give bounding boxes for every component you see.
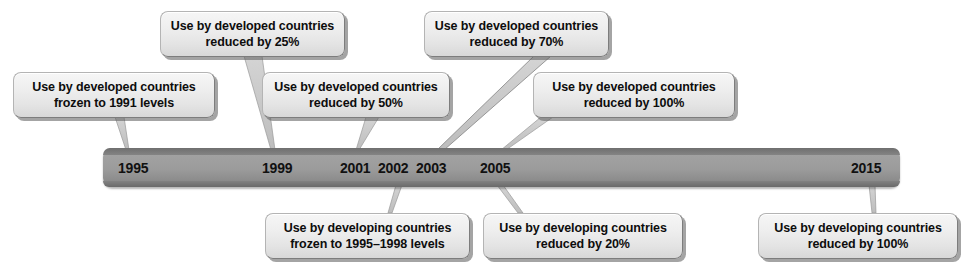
leader-line-2015-below <box>869 185 876 213</box>
callout-below-2005-text: Use by developing countries reduced by 2… <box>499 220 666 252</box>
callout-above-2005-text: Use by developed countries reduced by 10… <box>552 79 715 111</box>
callout-above-2005[interactable]: Use by developed countries reduced by 10… <box>533 72 735 118</box>
callout-above-1999[interactable]: Use by developed countries reduced by 25… <box>160 11 345 57</box>
tick-2001[interactable]: 2001 <box>340 160 370 176</box>
leader-line-2005-above <box>501 117 553 150</box>
callout-above-2001-text: Use by developed countries reduced by 50… <box>274 79 437 111</box>
tick-1995[interactable]: 1995 <box>118 160 148 176</box>
callout-below-2015-text: Use by developing countries reduced by 1… <box>774 220 941 252</box>
timeline-diagram: Use by developed countries frozen to 199… <box>0 0 974 276</box>
leader-line-2002-below <box>388 185 402 213</box>
callout-below-2002-text: Use by developing countries frozen to 19… <box>284 220 451 252</box>
callout-below-2005[interactable]: Use by developing countries reduced by 2… <box>483 213 683 259</box>
callout-below-2002[interactable]: Use by developing countries frozen to 19… <box>265 213 470 259</box>
callout-below-2015[interactable]: Use by developing countries reduced by 1… <box>758 213 958 259</box>
leader-line-2005-below <box>497 185 523 213</box>
tick-2003[interactable]: 2003 <box>416 160 446 176</box>
callout-above-1999-text: Use by developed countries reduced by 25… <box>171 18 334 50</box>
tick-2015[interactable]: 2015 <box>851 160 881 176</box>
callout-above-2003[interactable]: Use by developed countries reduced by 70… <box>424 11 609 57</box>
tick-2002[interactable]: 2002 <box>378 160 408 176</box>
callout-above-2001[interactable]: Use by developed countries reduced by 50… <box>262 72 450 118</box>
leader-line-1995 <box>115 117 129 150</box>
tick-2005[interactable]: 2005 <box>480 160 510 176</box>
callout-above-1995[interactable]: Use by developed countries frozen to 199… <box>13 72 215 118</box>
leader-line-2001 <box>356 117 379 150</box>
callout-above-2003-text: Use by developed countries reduced by 70… <box>435 18 598 50</box>
callout-above-1995-text: Use by developed countries frozen to 199… <box>32 79 195 111</box>
tick-1999[interactable]: 1999 <box>262 160 292 176</box>
